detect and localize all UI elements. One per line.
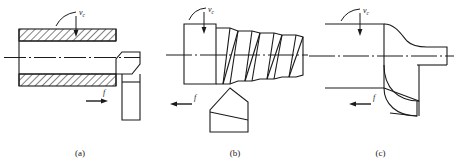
- upper-section-band: [19, 29, 116, 41]
- speed-label-b: vc: [208, 5, 215, 15]
- tool-c-lower-curve: [384, 88, 417, 116]
- feed-label-c: f: [373, 93, 377, 102]
- tool-c: [384, 65, 419, 116]
- feed-label-a: f: [103, 88, 107, 97]
- panel-c-form-turning: vc f (c): [305, 0, 456, 162]
- panel-c-caption: (c): [305, 148, 456, 158]
- tool-b-rake-edge: [210, 112, 248, 120]
- panel-b-drawing: vc f: [160, 0, 310, 140]
- speed-label-a: vc: [79, 8, 86, 18]
- speed-arrow-b: [189, 8, 206, 34]
- tool-a: [116, 52, 140, 120]
- feed-label-b: f: [194, 93, 198, 102]
- speed-arrow-c: [341, 9, 362, 36]
- workpiece-b-shank: [184, 24, 216, 84]
- turning-operations-figure: vc f (a): [0, 0, 456, 162]
- feed-arrow-c: [349, 102, 371, 107]
- lower-section-band: [19, 74, 116, 86]
- tool-a-tip: [116, 52, 140, 74]
- tool-c-curved-edge: [384, 65, 419, 101]
- panel-a-cylindrical-turning: vc f (a): [0, 0, 160, 162]
- speed-label-c: vc: [363, 6, 370, 16]
- workpiece-b-thread: [216, 28, 303, 84]
- feed-arrow-a: [86, 99, 108, 104]
- panel-a-caption: (a): [0, 148, 160, 158]
- panel-c-drawing: vc f: [305, 0, 456, 140]
- panel-b-thread-cutting: vc f (b): [160, 0, 310, 162]
- panel-b-caption: (b): [160, 148, 310, 158]
- tool-a-shank: [122, 74, 140, 120]
- feed-arrow-b: [170, 102, 192, 107]
- tool-b: [210, 88, 248, 132]
- tool-c-rake-line: [384, 88, 419, 101]
- panel-a-drawing: vc f: [0, 0, 160, 140]
- tool-b-body: [210, 88, 248, 132]
